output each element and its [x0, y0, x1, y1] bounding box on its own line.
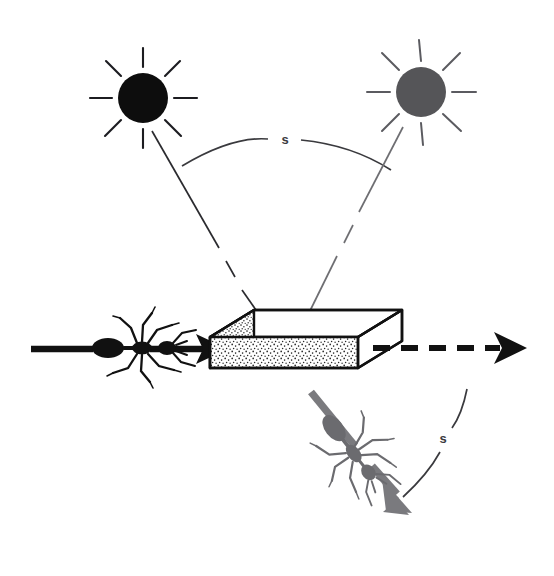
bottom-arc-label: s: [439, 431, 446, 446]
background: [0, 0, 554, 576]
top-arc-label: s: [281, 132, 288, 147]
diagram-canvas: s: [0, 0, 554, 576]
